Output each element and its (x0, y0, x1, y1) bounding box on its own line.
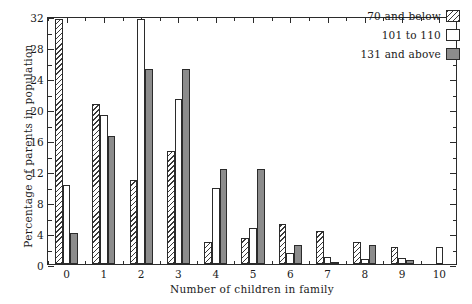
y-tick-major (48, 235, 54, 236)
bar-1-series-1 (100, 115, 108, 264)
y-tick-right-minor (453, 189, 457, 190)
legend: 70 and below 101 to 110 131 and above (360, 8, 460, 65)
x-tick-label: 5 (250, 269, 257, 280)
x-tick-minor (346, 261, 347, 264)
y-tick-label: 20 (30, 106, 44, 117)
x-tick-minor (383, 261, 384, 264)
bar-8-series-0 (353, 242, 361, 264)
x-axis-title: Number of children in family (47, 283, 457, 295)
bar-4-series-1 (212, 188, 220, 264)
bar-9-series-1 (398, 258, 406, 264)
bar-3-series-2 (182, 69, 190, 264)
y-tick-label: 0 (37, 261, 44, 272)
legend-label-0: 70 and below (367, 10, 441, 22)
x-tick-top-major (216, 18, 217, 23)
bar-4-series-2 (220, 169, 228, 264)
y-tick-minor (48, 65, 52, 66)
bar-6-series-0 (279, 224, 287, 264)
y-tick-major (48, 142, 54, 143)
y-tick-major (48, 111, 54, 112)
y-tick-right-minor (453, 220, 457, 221)
x-tick-minor (197, 261, 198, 264)
y-tick-right-minor (453, 127, 457, 128)
x-tick-label: 9 (399, 269, 406, 280)
x-tick-label: 10 (433, 269, 446, 280)
y-tick-right-major (450, 142, 456, 143)
y-tick-label: 4 (37, 230, 44, 241)
y-tick-right-major (450, 173, 456, 174)
x-tick-top-minor (48, 18, 49, 21)
bar-3-series-0 (167, 151, 175, 264)
legend-swatch-white-icon (446, 29, 460, 41)
bar-9-series-2 (406, 260, 414, 264)
y-tick-label: 8 (37, 199, 44, 210)
y-tick-label: 32 (30, 13, 44, 24)
y-tick-minor (48, 96, 52, 97)
x-tick-top-minor (346, 18, 347, 21)
y-tick-major (48, 204, 54, 205)
bar-6-series-2 (294, 245, 302, 264)
y-tick-right-major (450, 266, 456, 267)
x-tick-top-major (178, 18, 179, 23)
x-tick-top-minor (85, 18, 86, 21)
bar-1-series-0 (92, 104, 100, 264)
bar-9-series-0 (391, 247, 399, 264)
legend-swatch-gray-icon (446, 48, 460, 60)
x-tick-minor (421, 261, 422, 264)
bar-5-series-2 (257, 169, 265, 264)
y-tick-right-major (450, 235, 456, 236)
x-tick-minor (85, 261, 86, 264)
bar-2-series-1 (137, 19, 145, 264)
bar-8-series-1 (361, 259, 369, 264)
x-tick-label: 3 (175, 269, 182, 280)
y-tick-right-minor (453, 96, 457, 97)
legend-item-0: 70 and below (360, 8, 460, 24)
x-tick-top-minor (160, 18, 161, 21)
legend-item-2: 131 and above (360, 46, 460, 62)
y-tick-right-major (450, 204, 456, 205)
y-tick-minor (48, 34, 52, 35)
x-tick-top-major (67, 18, 68, 23)
x-tick-label: 1 (101, 269, 108, 280)
x-tick-top-minor (234, 18, 235, 21)
y-tick-major (48, 80, 54, 81)
bar-0-series-2 (70, 233, 78, 264)
legend-label-2: 131 and above (360, 48, 441, 60)
y-tick-minor (48, 158, 52, 159)
x-tick-label: 6 (287, 269, 294, 280)
x-tick-top-major (328, 18, 329, 23)
bar-7-series-1 (324, 257, 332, 264)
x-tick-minor (234, 261, 235, 264)
bar-7-series-0 (316, 231, 324, 264)
x-tick-top-minor (123, 18, 124, 21)
bar-5-series-0 (241, 238, 249, 264)
x-tick-label: 2 (138, 269, 145, 280)
bar-6-series-1 (286, 253, 294, 264)
y-tick-major (48, 49, 54, 50)
bar-10-series-1 (436, 247, 444, 264)
x-tick-top-major (253, 18, 254, 23)
y-tick-major (48, 266, 54, 267)
bar-0-series-0 (55, 19, 63, 264)
x-tick-label: 8 (361, 269, 368, 280)
legend-item-1: 101 to 110 (360, 27, 460, 43)
y-tick-major (48, 173, 54, 174)
bar-1-series-2 (108, 136, 116, 264)
y-tick-minor (48, 251, 52, 252)
y-tick-label: 12 (30, 168, 44, 179)
bar-2-series-0 (130, 180, 138, 264)
y-tick-right-major (450, 80, 456, 81)
x-tick-minor (48, 261, 49, 264)
legend-swatch-hatched-icon (446, 10, 460, 22)
x-tick-minor (272, 261, 273, 264)
x-tick-label: 4 (212, 269, 219, 280)
x-tick-label: 7 (324, 269, 331, 280)
bar-2-series-2 (145, 69, 153, 264)
y-tick-label: 16 (30, 137, 44, 148)
x-tick-top-major (290, 18, 291, 23)
x-tick-top-minor (272, 18, 273, 21)
x-tick-minor (123, 261, 124, 264)
y-tick-minor (48, 220, 52, 221)
y-tick-right-minor (453, 158, 457, 159)
y-tick-label: 28 (30, 44, 44, 55)
